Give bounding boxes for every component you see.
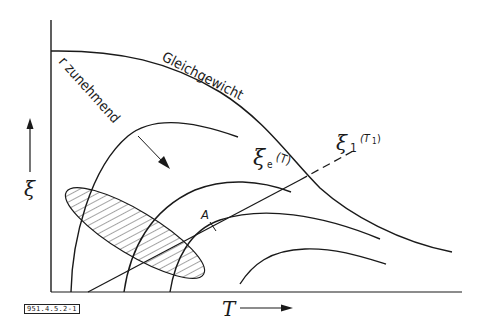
svg-text:(T): (T)	[274, 150, 293, 168]
y-arrowhead-icon	[27, 118, 34, 129]
svg-text:e: e	[267, 159, 273, 170]
rate-curve-4	[240, 249, 386, 284]
rate-curve-3	[170, 213, 380, 292]
y-axis-label: ξ	[24, 177, 36, 201]
svg-text:1: 1	[350, 141, 357, 155]
svg-text:ξ: ξ	[253, 145, 267, 170]
svg-text:1: 1	[372, 137, 377, 146]
svg-text:): )	[377, 132, 381, 145]
equilibrium-symbol: ξ e (T)	[253, 145, 293, 170]
figure-id: 951.4.5.2-1	[24, 304, 80, 314]
reaction-diagram: ξ T A Gleichgewicht ξ e (T) ξ 1 (T 1 ) r…	[0, 0, 481, 326]
svg-text:ξ: ξ	[336, 131, 348, 155]
svg-text:(T: (T	[360, 132, 371, 145]
direction-arrow-icon	[138, 136, 163, 162]
direction-arrowhead-icon	[158, 156, 170, 169]
point-a-label: A	[200, 207, 209, 222]
x-arrowhead-icon	[281, 305, 293, 312]
equilibrium-label: Gleichgewicht	[160, 48, 246, 103]
x-axis-label: T	[222, 297, 237, 321]
family-label: r zunehmend	[56, 53, 124, 126]
operating-line-label: ξ 1 (T 1 )	[336, 131, 381, 155]
